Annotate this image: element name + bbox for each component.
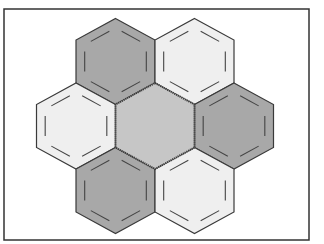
hexagon-cluster-diagram [0, 0, 324, 244]
